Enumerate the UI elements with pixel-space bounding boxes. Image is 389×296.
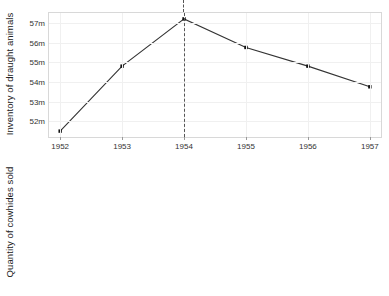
annotation-vline-1954 xyxy=(184,13,185,137)
x-axis-tick-mark xyxy=(122,137,123,140)
gridline-horizontal xyxy=(49,102,381,103)
x-axis-tick-mark xyxy=(370,137,371,140)
y-axis-label-bottom: Quantity of cowhides sold xyxy=(2,148,16,296)
gridline-horizontal xyxy=(49,43,381,44)
two-panel-line-chart-figure: Inventory of draught animals 52m53m54m55… xyxy=(0,0,389,296)
x-axis-tick-mark xyxy=(308,137,309,140)
x-axis-tick-mark xyxy=(60,137,61,140)
gridline-horizontal xyxy=(49,82,381,83)
x-axis-tick-mark xyxy=(246,137,247,140)
x-axis-tick-mark xyxy=(184,137,185,140)
data-line xyxy=(60,19,370,131)
y-axis-label-top: Inventory of draught animals xyxy=(2,0,16,148)
series-line-top xyxy=(49,13,383,139)
gridline-vertical xyxy=(60,13,61,137)
plot-area-top: 52m53m54m55m56m57m1952195319541955195619… xyxy=(48,12,382,138)
chart-panel-bottom: Quantity of cowhides sold 2m4m6m8m195219… xyxy=(0,148,389,296)
y-axis-tick-label: 57m xyxy=(29,18,45,27)
gridline-vertical xyxy=(308,13,309,137)
y-axis-tick-label: 54m xyxy=(29,77,45,86)
chart-panel-top: Inventory of draught animals 52m53m54m55… xyxy=(0,0,389,148)
gridline-vertical xyxy=(246,13,247,137)
gridline-vertical xyxy=(370,13,371,137)
gridline-horizontal xyxy=(49,62,381,63)
y-axis-tick-label: 56m xyxy=(29,38,45,47)
y-axis-tick-label: 55m xyxy=(29,58,45,67)
gridline-horizontal xyxy=(49,23,381,24)
gridline-horizontal xyxy=(49,121,381,122)
y-axis-tick-label: 53m xyxy=(29,97,45,106)
y-axis-tick-label: 52m xyxy=(29,117,45,126)
gridline-vertical xyxy=(122,13,123,137)
